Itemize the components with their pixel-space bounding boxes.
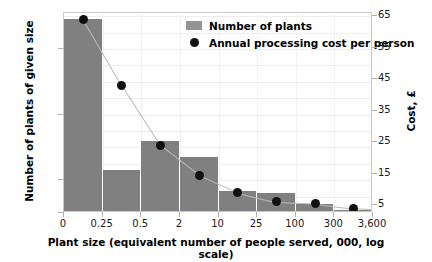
x-axis-tick-label: 3,600: [358, 219, 387, 229]
y-axis-label-left: Number of plants of given size: [23, 16, 35, 206]
legend-label-bars: Number of plants: [209, 20, 312, 32]
gridline: [64, 98, 371, 99]
x-axis-tick-mark: [218, 212, 219, 217]
dot-swatch-icon: [186, 38, 202, 47]
y-axis-tick-mark-left: [58, 179, 63, 180]
gridline: [64, 115, 371, 116]
y-axis-tick-label-right: 45: [378, 73, 412, 83]
data-point-dot: [311, 199, 320, 208]
bar: [141, 141, 180, 211]
x-axis-tick-mark: [256, 212, 257, 217]
x-axis-label: Plant size (equivalent number of people …: [36, 236, 396, 260]
x-axis-tick-label: 300: [324, 219, 343, 229]
x-axis-tick-label: 25: [250, 219, 263, 229]
x-axis-tick-label: 100: [285, 219, 304, 229]
y-axis-tick-mark-left: [58, 114, 63, 115]
y-axis-tick-mark-right: [372, 173, 377, 174]
y-axis-tick-mark-left: [58, 48, 63, 49]
x-axis-tick-label: 10: [211, 219, 224, 229]
x-axis-tick-mark: [63, 212, 64, 217]
data-point-dot: [156, 141, 165, 150]
bar-swatch-icon: [186, 21, 202, 30]
y-axis-tick-mark-right: [372, 110, 377, 111]
y-axis-tick-label-right: 5: [378, 199, 412, 209]
x-axis-tick-label: 0: [60, 219, 66, 229]
y-axis-tick-label-right: 25: [378, 136, 412, 146]
data-point-dot: [79, 15, 88, 24]
x-axis-tick-label: 0.25: [90, 219, 112, 229]
x-axis-tick-mark: [179, 212, 180, 217]
y-axis-tick-label-right: 55: [378, 42, 412, 52]
y-axis-tick-label-right: 15: [378, 168, 412, 178]
gridline: [64, 147, 371, 148]
x-axis-tick-mark: [102, 212, 103, 217]
data-point-dot: [349, 204, 358, 212]
x-axis-tick-label: 2: [176, 219, 182, 229]
gridline: [64, 131, 371, 132]
y-axis-tick-mark-right: [372, 78, 377, 79]
gridline: [64, 82, 371, 83]
bar: [64, 19, 103, 211]
x-axis-tick-label: 0.5: [132, 219, 148, 229]
y-axis-tick-mark-right: [372, 15, 377, 16]
y-axis-tick-mark-right: [372, 204, 377, 205]
y-axis-tick-label-right: 65: [378, 10, 412, 20]
x-axis-tick-mark: [295, 212, 296, 217]
chart-figure: Number of plants of given size Cost, £ P…: [0, 0, 432, 262]
bar: [103, 170, 142, 211]
x-axis-tick-mark: [333, 212, 334, 217]
y-axis-tick-mark-right: [372, 47, 377, 48]
y-axis-tick-mark-right: [372, 141, 377, 142]
y-axis-tick-label-right: 35: [378, 105, 412, 115]
data-point-dot: [117, 81, 126, 90]
data-point-dot: [195, 171, 204, 180]
x-axis-tick-mark: [140, 212, 141, 217]
x-axis-tick-mark: [372, 212, 373, 217]
